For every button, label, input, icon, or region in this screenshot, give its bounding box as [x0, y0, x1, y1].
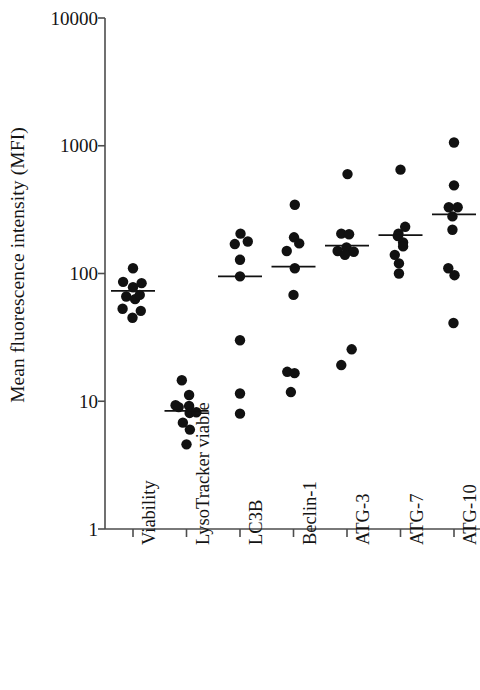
data-point [121, 291, 131, 301]
data-point [395, 164, 405, 174]
data-point [235, 388, 245, 398]
data-point [346, 344, 356, 354]
data-point [235, 408, 245, 418]
data-point [342, 169, 352, 179]
data-point [289, 368, 299, 378]
data-point [136, 306, 146, 316]
data-point [349, 247, 359, 257]
data-point [294, 238, 304, 248]
data-point [288, 290, 298, 300]
data-point [448, 318, 458, 328]
data-point [394, 268, 404, 278]
data-point [398, 241, 408, 251]
data-point [136, 278, 146, 288]
plot-canvas [0, 0, 480, 690]
data-point [286, 387, 296, 397]
data-point [243, 236, 253, 246]
data-point [449, 270, 459, 280]
data-point [191, 407, 201, 417]
data-point [230, 239, 240, 249]
data-point [118, 277, 128, 287]
data-point [181, 439, 191, 449]
data-point [290, 200, 300, 210]
scatter-plot-figure: Mean fluorescence intensity (MFI) 100001… [0, 0, 480, 690]
data-point [235, 335, 245, 345]
data-point [449, 137, 459, 147]
data-point [449, 180, 459, 190]
data-point [127, 313, 137, 323]
data-point [184, 390, 194, 400]
data-point [128, 263, 138, 273]
median-lines-layer [111, 214, 476, 410]
data-point [344, 229, 354, 239]
data-point [452, 202, 462, 212]
data-point [340, 250, 350, 260]
data-point [447, 211, 457, 221]
axes-layer [98, 18, 480, 537]
data-point [185, 424, 195, 434]
data-point [177, 375, 187, 385]
data-point [117, 304, 127, 314]
data-point [447, 225, 457, 235]
data-point [282, 246, 292, 256]
data-point [444, 202, 454, 212]
data-points-layer [117, 137, 462, 449]
data-point [290, 263, 300, 273]
data-point [235, 255, 245, 265]
data-point [235, 228, 245, 238]
data-point [394, 258, 404, 268]
data-point [336, 360, 346, 370]
